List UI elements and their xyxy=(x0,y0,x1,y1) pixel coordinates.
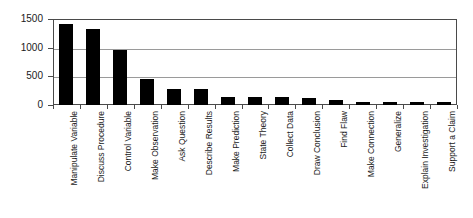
x-tick-mark xyxy=(80,105,81,109)
x-tick-mark xyxy=(268,105,269,109)
y-tick-label: 1000 xyxy=(21,43,43,53)
x-tick-label-text: Collect Data xyxy=(286,111,295,157)
bar-chart: 050010001500 Manipulate VariableDiscuss … xyxy=(0,0,473,218)
x-tick-label-text: Make Observation xyxy=(151,111,160,180)
x-tick-label-text: Control Variable xyxy=(124,111,133,171)
x-tick-label: Make Prediction xyxy=(232,50,241,111)
x-tick-label: Manipulate Variable xyxy=(70,37,79,112)
x-tick-label-text: Discuss Procedure xyxy=(97,111,106,182)
x-tick-label-text: Make Connection xyxy=(367,111,376,177)
x-tick-mark xyxy=(188,105,189,109)
x-axis: Manipulate VariableDiscuss ProcedureCont… xyxy=(53,105,457,218)
x-tick-label: Explain Investigation xyxy=(421,33,430,111)
x-tick-label-text: Ask Question xyxy=(178,111,187,162)
x-tick-label: Make Observation xyxy=(151,42,160,111)
x-tick-label-text: Describe Results xyxy=(205,111,214,175)
x-tick-label: Draw Conclusion xyxy=(313,47,322,111)
x-tick-label-text: Make Prediction xyxy=(232,111,241,172)
x-tick-label: State Theory xyxy=(259,62,268,111)
x-tick-label-text: Explain Investigation xyxy=(421,111,430,189)
x-tick-mark xyxy=(295,105,296,109)
y-tick-label: 0 xyxy=(37,100,43,110)
x-tick-mark xyxy=(134,105,135,109)
x-tick-mark xyxy=(430,105,431,109)
x-tick-label: Collect Data xyxy=(286,65,295,111)
x-tick-label: Support a Claim xyxy=(448,50,457,111)
x-tick-mark xyxy=(215,105,216,109)
x-tick-mark xyxy=(161,105,162,109)
x-tick-label: Find Flaw xyxy=(340,74,349,111)
x-tick-mark xyxy=(349,105,350,109)
x-tick-label: Control Variable xyxy=(124,51,133,111)
x-tick-label-text: Draw Conclusion xyxy=(313,111,322,175)
x-tick-mark xyxy=(322,105,323,109)
x-tick-mark xyxy=(242,105,243,109)
x-tick-mark xyxy=(457,105,458,109)
x-tick-label: Make Connection xyxy=(367,45,376,111)
x-tick-mark xyxy=(107,105,108,109)
x-tick-mark xyxy=(376,105,377,109)
x-tick-label-text: Support a Claim xyxy=(448,111,457,172)
y-axis: 050010001500 xyxy=(0,0,53,218)
x-tick-label-text: State Theory xyxy=(259,111,268,160)
x-tick-label: Ask Question xyxy=(178,60,187,111)
x-tick-label: Describe Results xyxy=(205,47,214,111)
x-tick-label-text: Generalize xyxy=(394,111,403,152)
x-tick-label-text: Manipulate Variable xyxy=(70,111,79,186)
x-tick-label-text: Find Flaw xyxy=(340,111,349,148)
x-tick-mark xyxy=(53,105,54,109)
x-tick-mark xyxy=(403,105,404,109)
x-tick-label: Discuss Procedure xyxy=(97,40,106,111)
x-tick-label: Generalize xyxy=(394,70,403,111)
y-tick-label: 500 xyxy=(26,71,43,81)
y-tick-label: 1500 xyxy=(21,14,43,24)
